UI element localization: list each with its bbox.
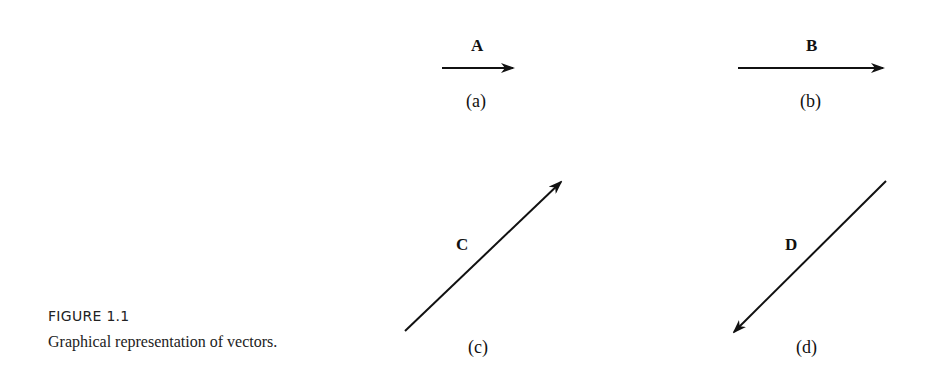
vector-c-arrow xyxy=(405,182,561,331)
figure-title: FIGURE 1.1 xyxy=(48,308,130,324)
vector-b-label: B xyxy=(806,36,817,56)
vector-diagram xyxy=(0,0,933,375)
vector-d-arrow xyxy=(734,181,886,332)
vector-d-label: D xyxy=(785,235,797,255)
panel-b-label: (b) xyxy=(800,91,821,112)
panel-c-label: (c) xyxy=(468,337,488,358)
figure-caption: Graphical representation of vectors. xyxy=(48,333,277,351)
vector-c-label: C xyxy=(456,235,468,255)
panel-a-label: (a) xyxy=(466,91,486,112)
vector-a-label: A xyxy=(471,36,483,56)
panel-d-label: (d) xyxy=(796,337,817,358)
